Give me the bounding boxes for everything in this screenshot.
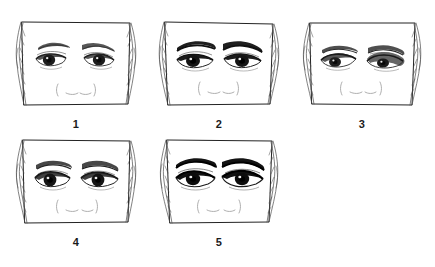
panel-1-drawing (12, 18, 140, 114)
panel-5-nose-marks (198, 200, 241, 213)
panel-3-label: 3 (298, 118, 426, 130)
panel-2-left-eye (177, 41, 216, 71)
panel-4: 4 (12, 136, 140, 248)
figure-root: Eye and eyebrow variation plate (0, 0, 435, 267)
panel-3: 3 (298, 18, 426, 130)
panel-4-nose-marks (57, 200, 98, 213)
panel-5-drawing (155, 136, 283, 232)
panel-2: 2 (155, 18, 283, 130)
panel-2-nose-marks (199, 82, 239, 95)
panel-5: 5 (155, 136, 283, 248)
panel-1: 1 (12, 18, 140, 130)
panel-3-left-eye (321, 46, 358, 71)
panel-3-drawing (298, 18, 426, 114)
panel-5-label: 5 (155, 236, 283, 248)
panel-3-right-eye (367, 45, 404, 71)
panel-1-right-eye (82, 43, 115, 69)
figure-title: Eye and eyebrow variation plate (0, 21, 1, 22)
panel-2-drawing (155, 18, 283, 114)
panel-2-right-eye (223, 41, 262, 71)
panel-5-left-eye (176, 158, 217, 190)
panel-4-drawing (12, 136, 140, 232)
panel-2-label: 2 (155, 118, 283, 130)
panel-1-left-eye (36, 43, 70, 69)
panel-1-nose-marks (57, 84, 96, 96)
panel-4-right-eye (81, 161, 118, 190)
panel-4-label: 4 (12, 236, 140, 248)
panel-5-right-eye (222, 158, 264, 190)
panel-3-nose-marks (341, 82, 382, 95)
panel-4-left-eye (35, 161, 72, 190)
panel-1-label: 1 (12, 118, 140, 130)
